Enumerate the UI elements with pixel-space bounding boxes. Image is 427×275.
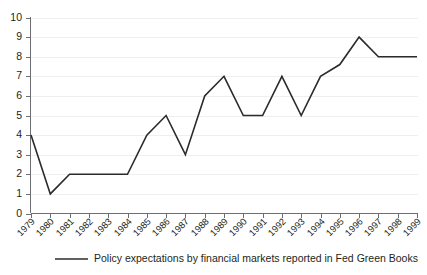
y-tick-label: 4 <box>16 128 22 140</box>
y-tick-label: 10 <box>10 11 22 23</box>
line-chart: 012345678910 197919801981198219831984198… <box>0 0 427 275</box>
y-tick-label: 5 <box>16 109 22 121</box>
y-tick-label: 3 <box>16 148 22 160</box>
x-axis-ticks <box>32 214 418 219</box>
legend-label: Policy expectations by financial markets… <box>94 252 418 264</box>
y-tick-label: 7 <box>16 69 22 81</box>
y-tick-label: 8 <box>16 50 22 62</box>
y-tick-label: 0 <box>16 207 22 219</box>
y-tick-label: 2 <box>16 167 22 179</box>
y-tick-label: 1 <box>16 187 22 199</box>
y-tick-label: 9 <box>16 30 22 42</box>
chart-container: 012345678910 197919801981198219831984198… <box>0 0 427 275</box>
y-tick-label: 6 <box>16 89 22 101</box>
